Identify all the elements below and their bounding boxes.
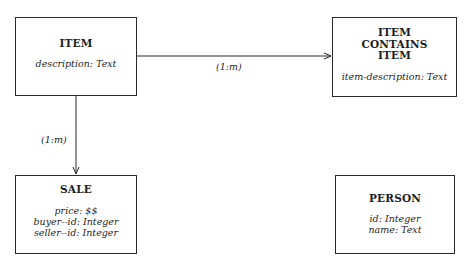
entity-attributes: item-description: Text xyxy=(333,71,456,82)
entity-name: SALE xyxy=(16,184,136,196)
attribute: item-description: Text xyxy=(333,71,456,82)
cardinality-label-item-contains-item: (1:m) xyxy=(216,61,242,72)
entity-attributes: price: $$ buyer--id: Integer seller--id:… xyxy=(16,205,136,238)
entity-person[interactable]: PERSON id: Integer name: Text xyxy=(335,175,455,254)
entity-item-contains-item[interactable]: ITEM CONTAINS ITEM item-description: Tex… xyxy=(332,17,457,97)
entity-attributes: id: Integer name: Text xyxy=(336,213,454,235)
entity-item[interactable]: ITEM description: Text xyxy=(15,17,137,96)
entity-name: ITEM xyxy=(16,38,136,50)
attribute: seller--id: Integer xyxy=(16,227,136,238)
attribute: buyer--id: Integer xyxy=(16,216,136,227)
attribute: description: Text xyxy=(16,58,136,69)
attribute: price: $$ xyxy=(16,205,136,216)
entity-sale[interactable]: SALE price: $$ buyer--id: Integer seller… xyxy=(15,175,137,254)
entity-attributes: description: Text xyxy=(16,58,136,69)
attribute: id: Integer xyxy=(336,213,454,224)
entity-name: ITEM CONTAINS ITEM xyxy=(333,27,456,62)
entity-name: PERSON xyxy=(336,193,454,205)
attribute: name: Text xyxy=(336,224,454,235)
cardinality-label-item-sale: (1:m) xyxy=(41,134,67,145)
